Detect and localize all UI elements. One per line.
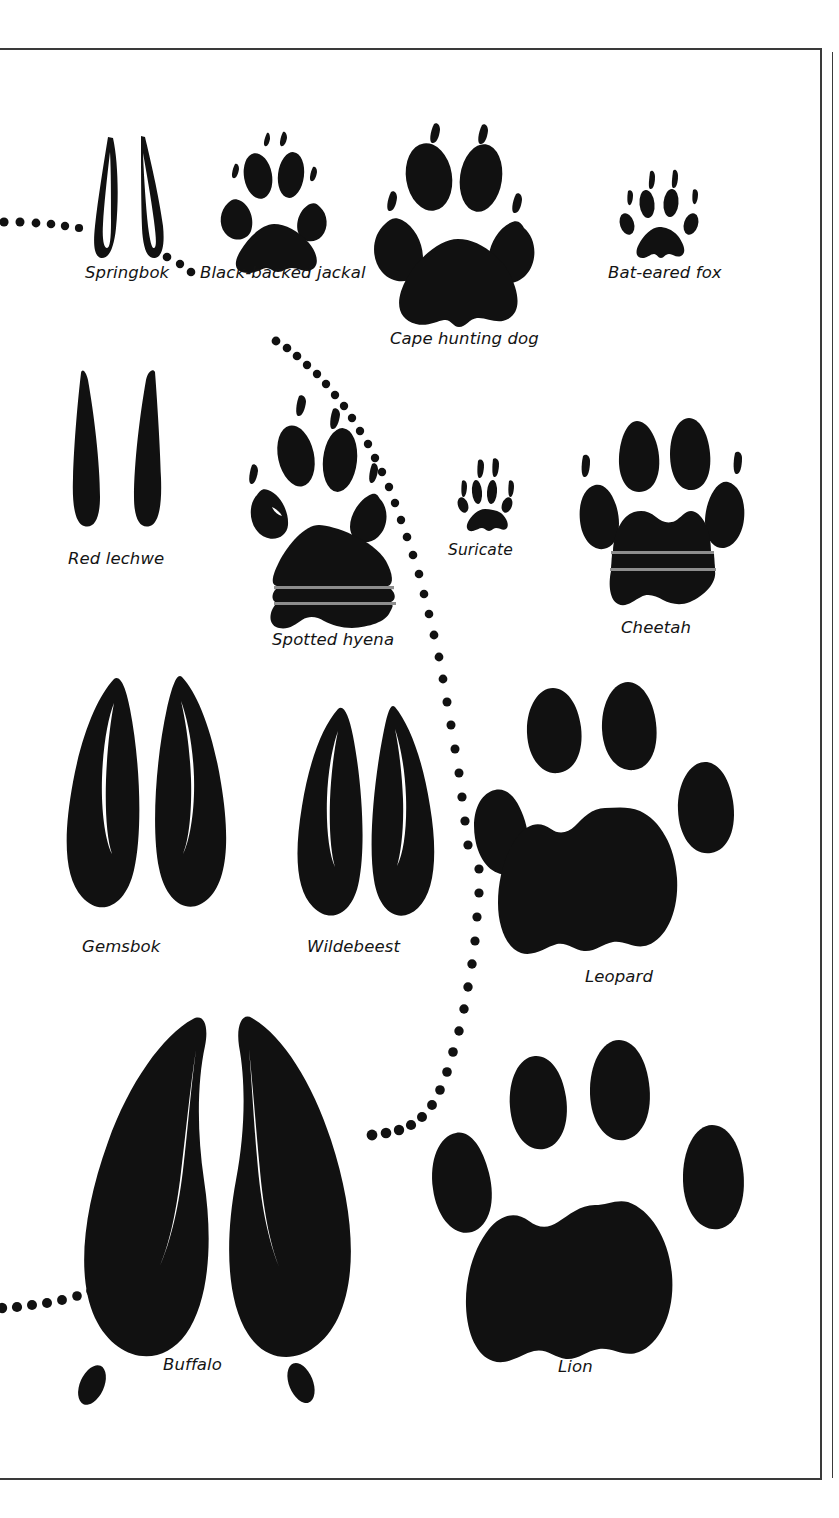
track-suricate [456,458,515,531]
track-springbok [94,136,164,258]
track-cape-hunting-dog [374,123,534,327]
spoor-illustration-plate [0,0,839,1518]
label-spotted-hyena: Spotted hyena [272,632,394,649]
label-leopard: Leopard [585,969,653,986]
label-red-lechwe: Red lechwe [68,551,164,568]
label-suricate: Suricate [448,543,513,559]
track-black-backed-jackal [221,132,327,273]
label-buffalo: Buffalo [163,1357,222,1374]
track-spotted-hyena [249,395,396,628]
label-gemsbok: Gemsbok [82,939,160,956]
label-black-backed-jackal: Black-backed jackal [200,265,366,282]
track-cheetah [580,418,745,605]
track-gemsbok [67,676,227,907]
track-buffalo [72,1017,350,1409]
track-bat-eared-fox [617,170,701,258]
label-cape-hunting-dog: Cape hunting dog [390,331,539,348]
track-wildebeest [297,706,434,916]
label-wildebeest: Wildebeest [307,939,400,956]
label-springbok: Springbok [85,265,169,282]
label-cheetah: Cheetah [621,620,691,637]
label-lion: Lion [558,1359,593,1376]
label-bat-eared-fox: Bat-eared fox [608,265,722,282]
guide-page: Springbok Black-backed jackal Cape hunti… [0,0,839,1518]
trail-springbok-left [0,217,83,232]
track-lion [432,1040,744,1362]
track-red-lechwe [73,370,161,526]
track-leopard [474,682,734,954]
